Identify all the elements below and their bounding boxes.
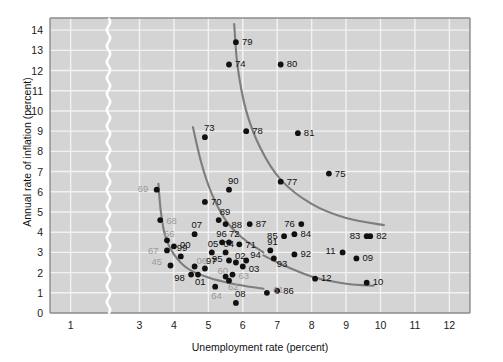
point-label-67: 67 [148,246,159,256]
point-label-45: 45 [151,257,162,267]
y-tick-10: 10 [17,105,43,117]
data-point-95 [226,258,232,264]
point-label-88: 88 [232,220,243,230]
point-label-05: 05 [208,239,219,249]
data-point-83 [364,233,370,239]
point-label-80: 80 [287,59,298,69]
point-label-92: 92 [300,249,311,259]
data-point-73 [202,134,208,140]
x-tick-1: 1 [58,319,84,331]
data-point-11 [340,250,346,256]
point-label-68: 68 [166,216,177,226]
point-label-09: 09 [362,253,373,263]
data-point-78 [243,128,249,134]
y-tick-3: 3 [17,246,43,258]
point-label-10: 10 [373,277,384,287]
data-point-74 [226,62,232,68]
point-label-03: 03 [249,264,260,274]
x-tick-4: 4 [161,319,187,331]
point-label-72: 72 [229,229,240,239]
point-label-07: 07 [192,220,203,230]
point-label-78: 78 [252,126,263,136]
point-label-04: 04 [224,239,235,249]
point-label-96: 96 [216,229,227,239]
data-point-09 [354,256,360,262]
x-tick-10: 10 [367,319,393,331]
point-label-69: 69 [138,184,149,194]
data-point-98 [188,272,194,278]
y-tick-5: 5 [17,206,43,218]
data-point-04 [223,250,229,256]
point-label-98: 98 [174,273,185,283]
y-tick-14: 14 [17,24,43,36]
x-tick-8: 8 [299,319,325,331]
data-point-80 [278,62,284,68]
point-label-76: 76 [284,219,295,229]
point-label-61: 61 [273,285,284,295]
data-point-81 [295,130,301,136]
data-point-70 [202,199,208,205]
data-point-76 [298,221,304,227]
point-label-60: 60 [218,266,229,276]
data-point-84 [292,231,298,237]
y-tick-6: 6 [17,186,43,198]
data-point-77 [278,179,284,185]
data-point-75 [326,171,332,177]
data-point-67 [164,248,170,254]
point-label-64: 64 [211,291,222,301]
point-label-66: 66 [164,229,175,239]
point-label-97: 97 [206,256,217,266]
data-point-79 [233,39,239,45]
point-label-74: 74 [235,59,246,69]
point-label-94: 94 [250,250,261,260]
y-tick-7: 7 [17,166,43,178]
y-tick-2: 2 [17,267,43,279]
data-point-92 [292,252,298,258]
point-label-90: 90 [228,176,239,186]
point-label-75: 75 [335,169,346,179]
data-point-64 [212,284,218,290]
y-tick-4: 4 [17,226,43,238]
x-tick-9: 9 [333,319,359,331]
x-tick-11: 11 [402,319,428,331]
point-label-73: 73 [204,123,215,133]
point-label-79: 79 [242,37,253,47]
point-label-81: 81 [304,128,315,138]
point-label-11: 11 [326,246,336,256]
data-point-85 [281,233,287,239]
point-label-77: 77 [287,177,298,187]
data-point-69 [154,187,160,193]
point-label-00: 00 [180,240,191,250]
point-label-86: 86 [283,286,294,296]
point-label-71: 71 [245,240,256,250]
data-point-08 [233,300,239,306]
point-label-70: 70 [211,197,222,207]
data-point-89 [216,217,222,223]
plot-canvas [0,0,503,362]
data-point-12 [312,276,318,282]
data-point-07 [192,231,198,237]
y-tick-9: 9 [17,125,43,137]
point-label-93: 93 [277,259,288,269]
data-point-03 [240,264,246,270]
x-tick-12: 12 [436,319,462,331]
phillips-curve-figure: Annual rate of inflation (percent) Unemp… [0,0,503,362]
y-tick-0: 0 [17,307,43,319]
data-point-45 [168,263,174,269]
point-label-83: 83 [350,231,361,241]
data-point-71 [236,241,242,247]
point-label-87: 87 [256,219,267,229]
point-label-63: 63 [238,271,249,281]
data-point-88 [223,221,229,227]
y-tick-13: 13 [17,44,43,56]
y-tick-8: 8 [17,145,43,157]
point-label-82: 82 [376,231,387,241]
point-label-08: 08 [235,289,246,299]
x-tick-5: 5 [195,319,221,331]
x-tick-7: 7 [264,319,290,331]
y-tick-1: 1 [17,287,43,299]
x-axis-title: Unemployment rate (percent) [140,341,380,353]
y-tick-11: 11 [17,85,43,97]
data-point-91 [267,248,273,254]
data-point-87 [247,221,253,227]
